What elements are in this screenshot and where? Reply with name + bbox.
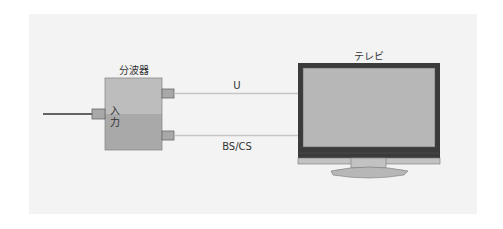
splitter-output-port-bscs: [162, 131, 174, 140]
splitter-output-port-u: [162, 89, 174, 98]
cable-label-bscs: BS/CS: [222, 141, 252, 152]
tv-stand-base: [331, 167, 408, 178]
tv-label: テレビ: [354, 51, 384, 62]
splitter-input-port: [92, 109, 105, 119]
cable-label-u: U: [233, 80, 240, 91]
splitter-tv-diagram: 分波器 入 力 U BS/CS テレビ: [0, 0, 503, 229]
splitter: 分波器 入 力: [92, 64, 174, 150]
tv: テレビ: [298, 51, 440, 178]
tv-stand-neck: [351, 158, 386, 168]
splitter-label: 分波器: [119, 64, 149, 76]
input-label-line2: 力: [110, 116, 120, 128]
input-label-line1: 入: [110, 105, 120, 116]
tv-screen: [303, 68, 435, 147]
